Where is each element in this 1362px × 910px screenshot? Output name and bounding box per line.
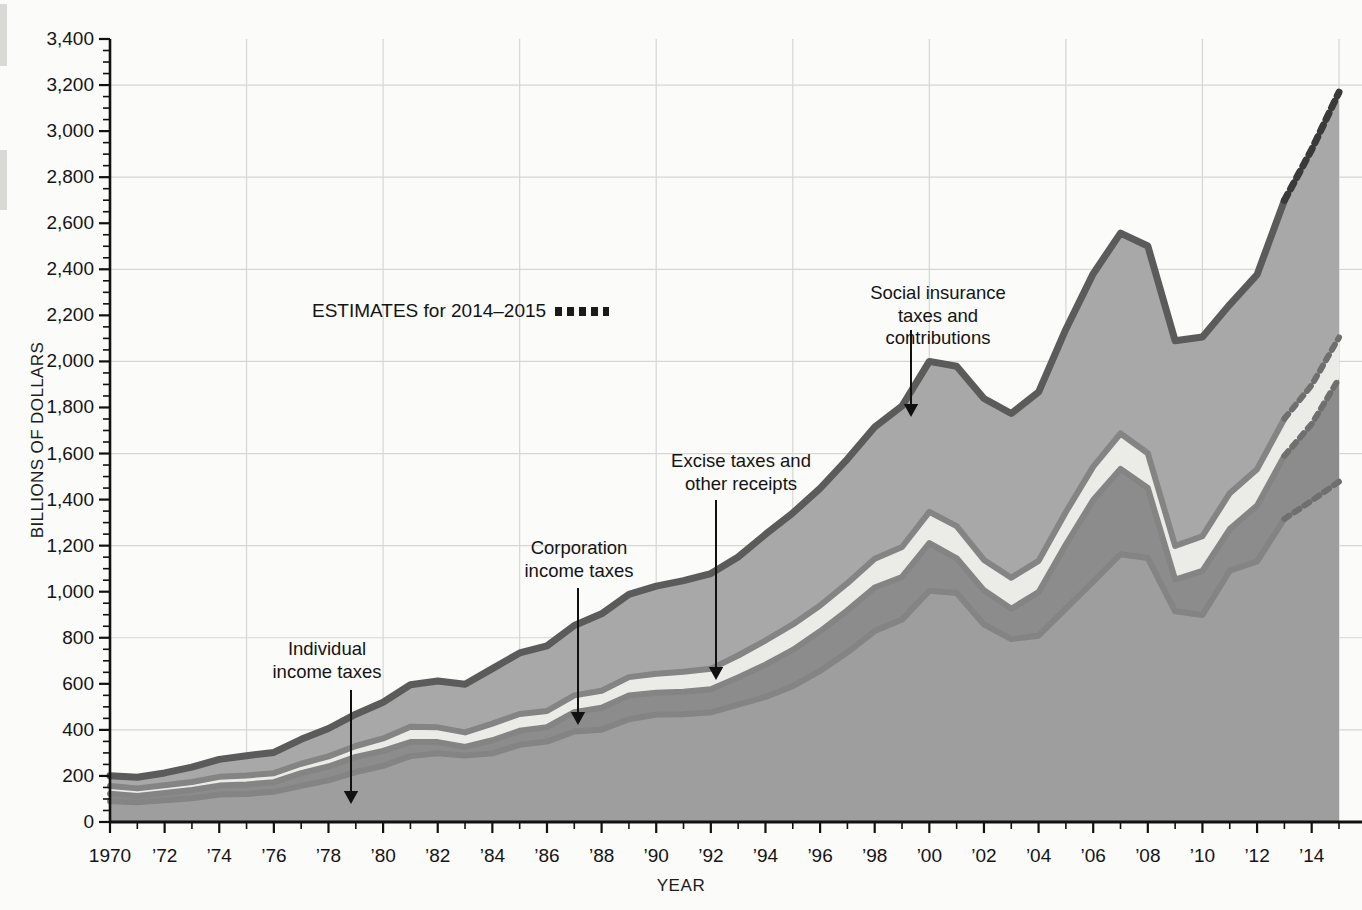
y-tick-label: 2,200	[8, 305, 94, 324]
x-tick-label: ’98	[862, 846, 887, 865]
x-tick-label: ’08	[1135, 846, 1160, 865]
annotation-social-insurance: Social insurance taxes and contributions	[830, 282, 1046, 350]
y-tick-label: 0	[8, 812, 94, 831]
x-tick-label: ’80	[370, 846, 395, 865]
x-tick-label: ’74	[207, 846, 232, 865]
x-tick-label: ’14	[1299, 846, 1324, 865]
x-tick-label: ’84	[480, 846, 505, 865]
annotation-excise-taxes: Excise taxes and other receipts	[634, 450, 848, 495]
y-tick-label: 2,800	[8, 167, 94, 186]
x-tick-label: ’06	[1081, 846, 1106, 865]
y-tick-label: 2,600	[8, 213, 94, 232]
y-tick-label: 400	[8, 720, 94, 739]
y-tick-label: 1,600	[8, 444, 94, 463]
y-tick-label: 800	[8, 628, 94, 647]
x-tick-label: ’00	[917, 846, 942, 865]
x-axis-title: YEAR	[0, 876, 1362, 896]
x-tick-label: ’72	[152, 846, 177, 865]
x-tick-label: ’10	[1190, 846, 1215, 865]
y-tick-label: 600	[8, 674, 94, 693]
estimates-legend-label: ESTIMATES for 2014–2015	[312, 300, 546, 322]
y-tick-label: 2,000	[8, 351, 94, 370]
chart-canvas: BILLIONS OF DOLLARS YEAR 02004006008001,…	[0, 0, 1362, 910]
y-tick-label: 1,000	[8, 582, 94, 601]
y-tick-label: 1,400	[8, 490, 94, 509]
x-tick-label: ’02	[971, 846, 996, 865]
x-tick-label: ’86	[534, 846, 559, 865]
dotted-line-swatch-icon	[555, 307, 609, 316]
y-tick-label: 3,400	[8, 29, 94, 48]
annotation-corporation-income-taxes: Corporation income taxes	[484, 537, 674, 582]
x-tick-label: ’88	[589, 846, 614, 865]
x-tick-label: ’12	[1244, 846, 1269, 865]
x-tick-label: ’76	[261, 846, 286, 865]
y-tick-label: 1,800	[8, 397, 94, 416]
y-tick-label: 3,200	[8, 75, 94, 94]
x-tick-label: ’82	[425, 846, 450, 865]
x-tick-label: ’94	[753, 846, 778, 865]
y-tick-label: 200	[8, 766, 94, 785]
x-tick-label: 1970	[89, 846, 131, 865]
estimates-legend: ESTIMATES for 2014–2015	[312, 300, 609, 322]
x-tick-label: ’90	[644, 846, 669, 865]
y-tick-label: 1,200	[8, 536, 94, 555]
x-tick-label: ’96	[807, 846, 832, 865]
x-tick-label: ’04	[1026, 846, 1051, 865]
x-tick-label: ’78	[316, 846, 341, 865]
y-tick-label: 2,400	[8, 259, 94, 278]
x-tick-label: ’92	[698, 846, 723, 865]
annotation-individual-income-taxes: Individual income taxes	[232, 638, 422, 683]
y-tick-label: 3,000	[8, 121, 94, 140]
